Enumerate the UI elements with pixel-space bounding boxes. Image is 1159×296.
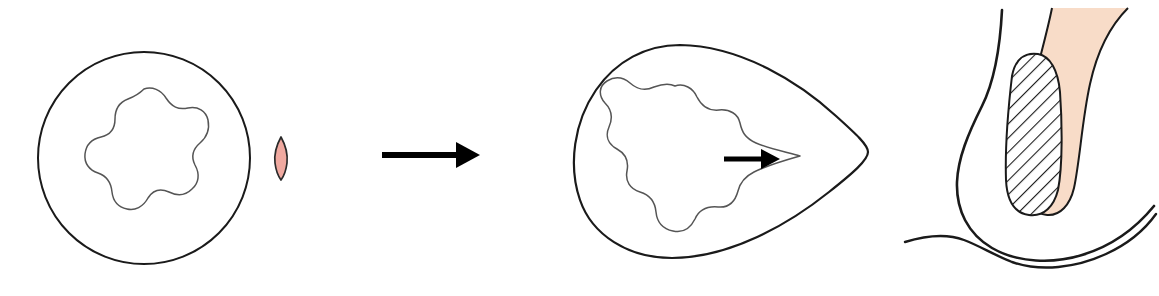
panel-anatomical-cross-section — [905, 8, 1156, 268]
spindle-particle — [275, 137, 288, 180]
outer-circle — [38, 52, 250, 264]
panel-pink-particle — [275, 137, 288, 180]
inner-wavy-lumen — [85, 88, 209, 210]
outer-teardrop — [574, 45, 868, 258]
figure-root: Duct deformation and sperm-like particle… — [0, 0, 1159, 296]
panel-transformation-arrow — [382, 142, 480, 168]
transformation-arrow-head — [456, 142, 480, 168]
panel-undeformed-duct — [38, 52, 250, 264]
panel-deformed-duct — [574, 45, 868, 258]
schematic-diagram — [0, 0, 1159, 296]
